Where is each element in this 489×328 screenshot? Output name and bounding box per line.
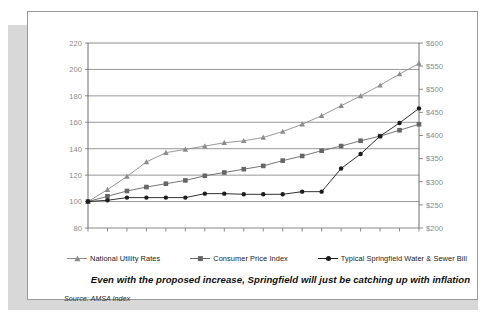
y-axis-tick-label-right: $600 <box>426 39 443 48</box>
data-point-square <box>417 122 422 127</box>
data-point-triangle <box>377 82 383 87</box>
y-axis-tick-label-left: 200 <box>69 65 82 74</box>
y-axis-tick-label-left: 100 <box>69 197 82 206</box>
data-point-circle <box>105 198 109 202</box>
series-line <box>88 63 419 201</box>
y-axis-tick-label-right: $300 <box>426 178 443 187</box>
y-axis-tick-label-right: $350 <box>426 154 443 163</box>
data-point-square <box>222 170 227 175</box>
legend-item-consumer-price-index: Consumer Price Index <box>190 254 288 263</box>
series-national-utility-rates <box>85 61 422 204</box>
data-point-square <box>339 144 344 149</box>
data-point-triangle <box>416 61 422 66</box>
legend-item-springfield-water-sewer-bill: Typical Springfield Water & Sewer Bill <box>318 254 467 263</box>
chart-legend: National Utility Rates Consumer Price In… <box>55 251 489 265</box>
legend-item-national-utility-rates: National Utility Rates <box>67 254 160 263</box>
triangle-marker-icon <box>67 254 87 263</box>
data-point-circle <box>144 195 148 199</box>
y-axis-tick-label-left: 180 <box>69 92 82 101</box>
chart-card: 22020018016014012010080$600$550$500$450$… <box>27 11 478 300</box>
source-value: AMSA Index <box>89 294 130 303</box>
y-axis-tick-label-left: 220 <box>69 39 82 48</box>
data-point-circle <box>261 192 265 196</box>
data-point-circle <box>339 166 343 170</box>
legend-label-consumer-price-index: Consumer Price Index <box>213 254 288 263</box>
line-chart: 22020018016014012010080$600$550$500$450$… <box>62 32 445 232</box>
y-axis-tick-label-left: 140 <box>69 145 82 154</box>
data-point-triangle <box>319 113 325 118</box>
data-point-circle <box>417 106 421 110</box>
data-point-square <box>183 178 188 183</box>
data-point-square <box>280 158 285 163</box>
data-point-square <box>105 194 110 199</box>
series-consumer-price-index <box>86 122 422 204</box>
data-point-circle <box>281 192 285 196</box>
data-point-triangle <box>105 187 111 192</box>
circle-marker-icon <box>318 254 338 263</box>
data-point-triangle <box>338 103 344 108</box>
data-point-circle <box>164 195 168 199</box>
data-point-circle <box>183 195 187 199</box>
y-axis-tick-label-left: 80 <box>74 224 82 232</box>
y-axis-tick-label-right: $400 <box>426 131 443 140</box>
y-axis-tick-label-left: 160 <box>69 118 82 127</box>
data-point-triangle <box>397 71 403 76</box>
data-point-triangle <box>144 159 150 164</box>
chart-source: Source: AMSA Index <box>64 294 130 303</box>
data-point-square <box>241 167 246 172</box>
data-point-circle <box>222 191 226 195</box>
series-line <box>88 124 419 201</box>
legend-label-springfield-water-sewer-bill: Typical Springfield Water & Sewer Bill <box>341 254 467 263</box>
data-point-square <box>144 185 149 190</box>
data-point-square <box>300 154 305 159</box>
chart-caption: Even with the proposed increase, Springf… <box>55 274 489 285</box>
data-point-square <box>203 174 208 179</box>
data-point-circle <box>397 121 401 125</box>
data-point-circle <box>242 192 246 196</box>
y-axis-tick-label-right: $250 <box>426 201 443 210</box>
data-point-circle <box>319 189 323 193</box>
data-point-circle <box>378 134 382 138</box>
data-point-circle <box>203 191 207 195</box>
data-point-circle <box>358 152 362 156</box>
y-axis-tick-label-right: $200 <box>426 224 443 232</box>
plot-area: 22020018016014012010080$600$550$500$450$… <box>62 32 445 232</box>
data-point-square <box>261 164 266 169</box>
data-point-triangle <box>124 174 130 179</box>
y-axis-tick-label-right: $450 <box>426 108 443 117</box>
y-axis-tick-label-right: $500 <box>426 85 443 94</box>
chart-page: 22020018016014012010080$600$550$500$450$… <box>0 0 489 328</box>
y-axis-tick-label-left: 120 <box>69 171 82 180</box>
square-marker-icon <box>190 254 210 263</box>
data-point-square <box>358 138 363 143</box>
data-point-square <box>397 128 402 133</box>
data-point-square <box>319 148 324 153</box>
data-point-square <box>164 181 169 186</box>
data-point-circle <box>125 195 129 199</box>
y-axis-tick-label-right: $550 <box>426 62 443 71</box>
source-label: Source: <box>64 294 89 303</box>
data-point-circle <box>300 189 304 193</box>
legend-label-national-utility-rates: National Utility Rates <box>90 254 160 263</box>
data-point-square <box>125 189 130 194</box>
data-point-circle <box>86 199 90 203</box>
